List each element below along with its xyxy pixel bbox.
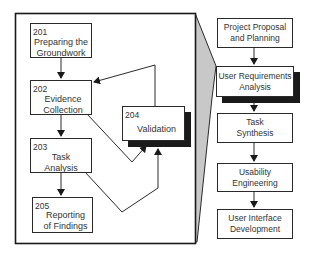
- step-label: Validation: [129, 124, 184, 135]
- phase-task-synthesis: Task Synthesis: [217, 113, 293, 143]
- phase-label-line1: Usability: [232, 167, 277, 178]
- phase-label-line2: and Planning: [224, 33, 286, 44]
- phase-label-line1: Project Proposal: [224, 22, 286, 33]
- step-label-line1: Evidence: [35, 94, 91, 105]
- phase-label-line2: Analysis: [218, 82, 291, 93]
- step-201: 201 Preparing the Groundwork: [30, 23, 92, 58]
- phase-user-requirements: User Requirements Analysis: [216, 66, 294, 97]
- step-label: Task Analysis: [31, 152, 91, 174]
- step-203: 203 Task Analysis: [30, 138, 92, 173]
- phase-project-proposal: Project Proposal and Planning: [217, 18, 293, 48]
- step-label-line2: Collection: [35, 105, 91, 116]
- phase-label-line1: Task: [237, 117, 274, 128]
- step-number: 204: [125, 110, 139, 121]
- step-label-line2: of Findings: [39, 221, 92, 232]
- step-204: 204 Validation: [122, 106, 185, 141]
- phase-ui-development: User Interface Development: [217, 209, 293, 239]
- step-label-line1: Preparing the: [31, 37, 91, 48]
- step-label-line2: Groundwork: [31, 48, 91, 59]
- phase-label-line2: Synthesis: [237, 128, 274, 139]
- step-label-line2: Analysis: [31, 163, 91, 174]
- phase-label-line2: Engineering: [232, 178, 277, 189]
- step-label-line1: Reporting: [39, 210, 92, 221]
- step-202: 202 Evidence Collection: [30, 80, 92, 115]
- phase-usability-engineering: Usability Engineering: [217, 163, 293, 192]
- step-label-line1: Task: [31, 152, 91, 163]
- step-label: Preparing the Groundwork: [31, 37, 91, 59]
- step-205: 205 Reporting of Findings: [32, 197, 93, 233]
- step-label: Evidence Collection: [35, 94, 91, 116]
- phase-label-line1: User Requirements: [218, 71, 291, 82]
- phase-label-line1: User Interface: [228, 213, 281, 224]
- phase-label-line2: Development: [228, 224, 281, 235]
- step-label-line1: Validation: [129, 124, 184, 135]
- step-label: Reporting of Findings: [39, 210, 92, 232]
- zoom-funnel: [195, 13, 216, 242]
